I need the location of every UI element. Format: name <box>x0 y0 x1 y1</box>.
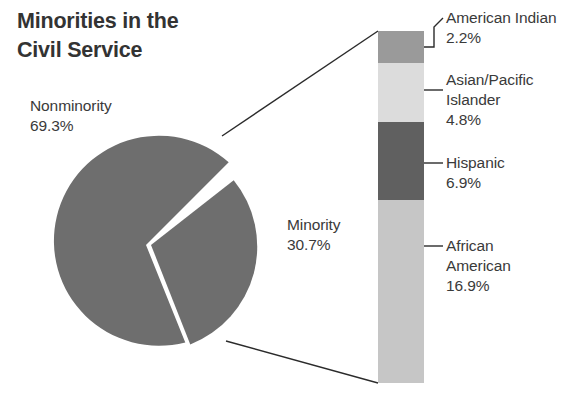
connector-line-top <box>222 31 378 136</box>
bar-segment-hispanic[interactable] <box>378 122 424 200</box>
chart-figure: Minorities in the Civil Service Nonminor… <box>0 0 581 395</box>
bar-segment-asian-pacific-islander[interactable] <box>378 63 424 122</box>
pie-label-nonminority: Nonminority 69.3% <box>30 96 180 136</box>
bar-label-african-american: African American 16.9% <box>446 236 571 295</box>
leader-line-american-indian <box>424 18 443 47</box>
bar-segment-american-indian[interactable] <box>378 31 424 63</box>
pie-label-minority: Minority 30.7% <box>287 215 397 255</box>
bar-label-american-indian: American Indian 2.2% <box>446 8 581 48</box>
chart-graphic <box>0 0 581 395</box>
bar-label-hispanic: Hispanic 6.9% <box>446 153 571 193</box>
bar-label-asian-pacific-islander: Asian/Pacific Islander 4.8% <box>446 70 571 129</box>
connector-line-bottom <box>226 341 378 383</box>
